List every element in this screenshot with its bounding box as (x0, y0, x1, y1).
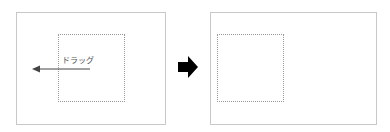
drag-left-arrow-icon (32, 64, 92, 74)
after-selection-box (217, 34, 284, 102)
right-arrow-icon (178, 56, 200, 78)
